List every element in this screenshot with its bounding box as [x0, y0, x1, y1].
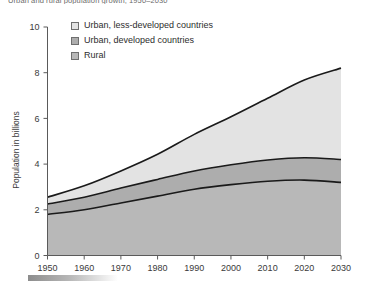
- y-tick-label: 10: [29, 22, 39, 32]
- x-tick-label: 1990: [184, 263, 204, 273]
- legend-item-urban-less-developed: Urban, less-developed countries: [71, 18, 213, 33]
- legend-label-urban-less-developed: Urban, less-developed countries: [84, 21, 213, 30]
- y-tick-label: 8: [34, 68, 39, 78]
- legend-swatch-urban-less-developed: [71, 22, 79, 30]
- chart-figure: Urban and rural population growth, 1950–…: [0, 0, 372, 286]
- legend-label-rural: Rural: [84, 51, 106, 60]
- x-tick-label: 1980: [148, 263, 168, 273]
- legend-swatch-urban-developed: [71, 37, 79, 45]
- y-tick-label: 4: [34, 159, 39, 169]
- x-tick-label: 2010: [258, 263, 278, 273]
- legend-item-urban-developed: Urban, developed countries: [71, 33, 213, 48]
- x-tick-label: 2030: [331, 263, 351, 273]
- legend-label-urban-developed: Urban, developed countries: [84, 36, 194, 45]
- y-tick-label: 6: [34, 114, 39, 124]
- stacked-area-bands: [48, 68, 342, 255]
- legend-item-rural: Rural: [71, 48, 213, 63]
- x-tick-label: 2000: [221, 263, 241, 273]
- x-tick-group: 195019601970198019902000201020202030: [37, 256, 351, 273]
- x-tick-label: 1970: [111, 263, 131, 273]
- y-tick-group: 0246810: [29, 22, 47, 261]
- legend-swatch-rural: [71, 52, 79, 60]
- chart-legend: Urban, less-developed countries Urban, d…: [71, 18, 213, 63]
- footer-gradient-bar: [28, 275, 118, 281]
- y-tick-label: 2: [34, 205, 39, 215]
- y-tick-label: 0: [34, 251, 39, 261]
- x-tick-label: 1960: [74, 263, 94, 273]
- x-tick-label: 1950: [37, 263, 57, 273]
- x-tick-label: 2020: [294, 263, 314, 273]
